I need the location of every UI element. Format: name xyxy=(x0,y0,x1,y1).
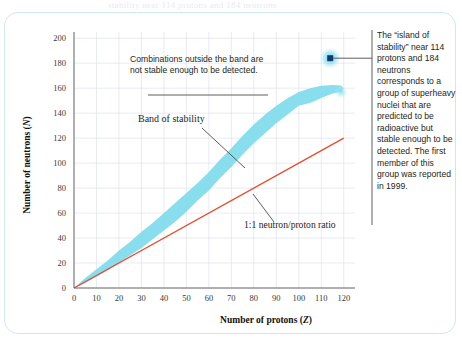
y-axis-title-suffix: ) xyxy=(22,116,32,119)
y-tick-label: 0 xyxy=(36,283,66,293)
y-tick-label: 140 xyxy=(36,108,66,118)
annotation-island-of-stability: The “island of stability” near 114 proto… xyxy=(377,30,457,192)
band-glow-patch xyxy=(334,85,348,99)
x-tick-label: 80 xyxy=(250,293,259,303)
x-tick-label: 90 xyxy=(272,293,281,303)
x-tick-label: 100 xyxy=(292,293,305,303)
y-tick-label: 120 xyxy=(36,133,66,143)
y-tick-label: 200 xyxy=(36,33,66,43)
y-tick-label: 160 xyxy=(36,83,66,93)
nuclear-stability-figure: stability near 114 protons and 184 neutr… xyxy=(0,0,462,341)
x-tick-label: 30 xyxy=(137,293,146,303)
callout-outside-band: Combinations outside the band are not st… xyxy=(130,54,270,77)
x-tick-label: 0 xyxy=(72,293,76,303)
y-tick-label: 40 xyxy=(36,233,66,243)
callout-neutron-proton-ratio: 1:1 neutron/proton ratio xyxy=(244,219,336,230)
x-tick-label: 70 xyxy=(227,293,236,303)
x-tick-label: 120 xyxy=(337,293,350,303)
y-tick-label: 100 xyxy=(36,158,66,168)
y-tick-label: 80 xyxy=(36,183,66,193)
x-tick-label: 60 xyxy=(205,293,214,303)
x-tick-label: 40 xyxy=(160,293,169,303)
callout-band-of-stability: Band of stability xyxy=(138,113,205,124)
x-tick-label: 10 xyxy=(92,293,101,303)
y-tick-label: 20 xyxy=(36,258,66,268)
y-axis-title: Number of neutrons (N) xyxy=(22,90,32,240)
x-axis-title-prefix: Number of protons ( xyxy=(220,315,303,325)
y-axis-title-prefix: Number of neutrons ( xyxy=(22,126,32,214)
y-tick-label: 180 xyxy=(36,58,66,68)
island-of-stability-marker xyxy=(327,55,333,61)
x-tick-label: 110 xyxy=(315,293,327,303)
y-tick-label: 60 xyxy=(36,208,66,218)
x-axis-title: Number of protons (Z) xyxy=(171,315,361,325)
x-tick-label: 50 xyxy=(182,293,191,303)
x-tick-label: 20 xyxy=(115,293,124,303)
y-axis-title-variable: N xyxy=(22,119,32,126)
x-axis-title-suffix: ) xyxy=(309,315,312,325)
